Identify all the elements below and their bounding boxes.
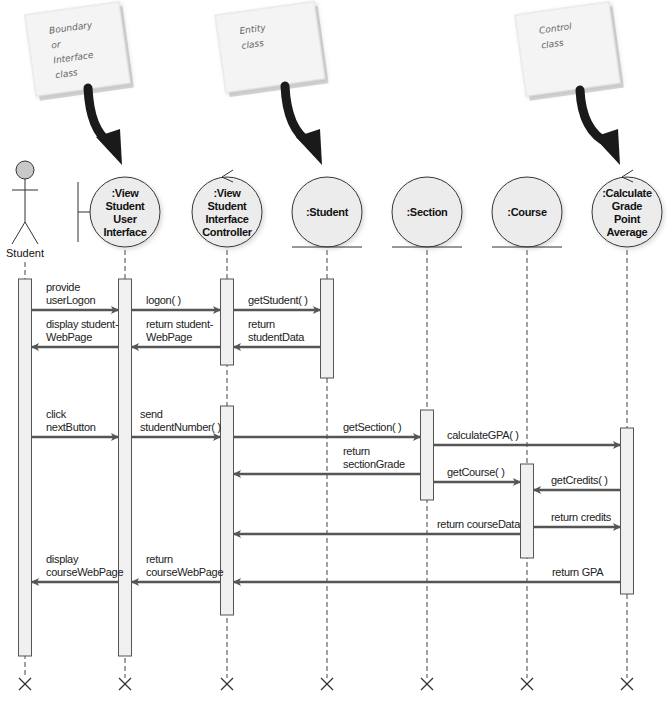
message-label: sectionGrade	[343, 458, 405, 470]
activation-bar-student-obj	[321, 279, 334, 378]
lifeline-head-course: :Course	[492, 177, 562, 247]
message-label: return courseData	[437, 518, 521, 530]
message-getstudent-: getStudent( )	[234, 294, 321, 310]
sequence-diagram: BoundaryorInterfaceclassEntityclassContr…	[0, 0, 672, 705]
message-label: display	[46, 553, 79, 565]
message-label: WebPage	[46, 331, 92, 343]
activation-bar-controller	[221, 279, 234, 365]
message-send-studentnumber-: sendstudentNumber( )	[132, 408, 221, 437]
destroy-marker-icon	[421, 678, 433, 690]
object-label: Average	[607, 226, 648, 238]
message-label: display student-	[46, 318, 119, 330]
lifeline-head-controller: :ViewStudentInterfaceController	[192, 170, 262, 247]
activation-bar-gpa	[621, 428, 634, 594]
activation-bars	[19, 279, 634, 656]
message-label: studentData	[248, 331, 305, 343]
destroy-marker-icon	[119, 678, 131, 690]
object-label: Controller	[202, 226, 253, 238]
annotation-notes: BoundaryorInterfaceclassEntityclassContr…	[25, 1, 624, 165]
destroy-marker-icon	[521, 678, 533, 690]
message-label: return	[248, 318, 275, 330]
object-label: Point	[614, 213, 641, 225]
object-label: :View	[111, 187, 139, 199]
object-label: :Section	[407, 206, 449, 218]
activation-bar-view-ui	[119, 279, 132, 656]
message-label: courseWebPage	[146, 566, 223, 578]
object-label: :Calculate	[602, 187, 652, 199]
object-label: :Student	[306, 206, 349, 218]
message-label: calculateGPA( )	[447, 429, 519, 441]
note-boundary: BoundaryorInterfaceclass	[25, 1, 134, 101]
message-return-student-webpage: return student-WebPage	[132, 318, 221, 347]
message-getcredits-: getCredits( )	[534, 474, 621, 490]
object-label: User	[113, 213, 137, 225]
message-display-student-webpage: display student-WebPage	[32, 318, 119, 347]
message-return-credits: return credits	[534, 511, 621, 527]
activation-bar-course	[521, 464, 534, 558]
message-label: getStudent( )	[248, 294, 308, 306]
message-display-coursewebpage: displaycourseWebPage	[32, 553, 123, 582]
note-entity: Entityclass	[215, 1, 329, 98]
lifeline-head-section: :Section	[392, 177, 462, 247]
message-return-coursedata: return courseData	[234, 518, 521, 534]
message-label: getCourse( )	[447, 466, 505, 478]
message-label: WebPage	[146, 331, 192, 343]
message-label: getCredits( )	[551, 474, 608, 486]
lifeline-head-view-ui: :ViewStudentUserInterface	[78, 177, 160, 247]
message-logon-: logon( )	[132, 294, 221, 310]
destroy-marker-icon	[321, 678, 333, 690]
object-label: :Course	[507, 206, 547, 218]
object-label: :View	[213, 187, 241, 199]
message-label: studentNumber( )	[140, 421, 221, 433]
message-label: return	[343, 445, 370, 457]
object-label: Interface	[205, 213, 248, 225]
message-label: return credits	[551, 511, 612, 523]
pointer-arrow-icon	[88, 88, 122, 165]
object-label: Student	[208, 200, 247, 212]
message-label: return	[146, 553, 173, 565]
destroy-marker-icon	[621, 678, 633, 690]
lifeline-heads: Student:ViewStudentUserInterface:ViewStu…	[6, 161, 662, 259]
activation-bar-section	[421, 410, 434, 500]
message-return-coursewebpage: returncourseWebPage	[132, 553, 223, 582]
destroy-marker-icon	[19, 678, 31, 690]
message-label: logon( )	[146, 294, 181, 306]
pointer-arrow-icon	[580, 90, 620, 165]
message-label: return student-	[146, 318, 214, 330]
lifeline-head-gpa: :CalculateGradePointAverage	[592, 170, 662, 247]
message-label: provide	[46, 281, 80, 293]
actor-stick-figure-icon	[12, 161, 38, 244]
message-label: courseWebPage	[46, 566, 123, 578]
message-label: click	[46, 408, 67, 420]
pointer-arrow-icon	[285, 86, 322, 165]
message-label: getSection( )	[343, 421, 401, 433]
destroy-marker-icon	[221, 678, 233, 690]
activation-bar-student	[19, 279, 32, 656]
message-provide-userlogon: provideuserLogon	[32, 281, 119, 310]
message-label: send	[140, 408, 163, 420]
actor-label: Student	[6, 247, 44, 259]
message-label: return GPA	[552, 566, 604, 578]
message-getcourse-: getCourse( )	[434, 466, 521, 482]
message-click-nextbutton: clicknextButton	[32, 408, 119, 437]
object-label: Student	[106, 200, 145, 212]
message-return-studentdata: returnstudentData	[234, 318, 321, 347]
activation-bar-controller	[221, 406, 234, 615]
message-label: userLogon	[46, 294, 95, 306]
message-label: nextButton	[46, 421, 96, 433]
note-control: Controlclass	[515, 1, 624, 101]
lifeline-head-student: Student	[6, 161, 44, 259]
lifeline-head-student-obj: :Student	[292, 177, 362, 247]
object-label: Interface	[103, 226, 146, 238]
object-label: Grade	[612, 200, 642, 212]
